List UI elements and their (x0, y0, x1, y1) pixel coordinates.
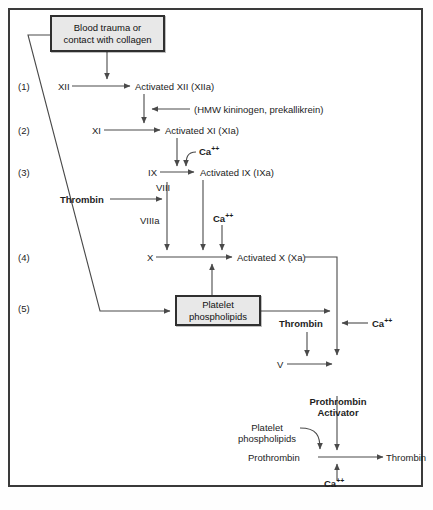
node-viiia: VIIIa (140, 215, 160, 226)
blood-trauma-box: Blood trauma or contact with collagen (50, 15, 165, 52)
node-hmw-kininogen-prekallikrein: (HMW kininogen, prekallikrein) (194, 104, 323, 115)
node-prothrombin: Prothrombin (248, 452, 300, 463)
node-thrombin-2: Thrombin (279, 318, 323, 329)
step-label-1: (1) (18, 81, 30, 92)
node-prothrombin-activator: Prothrombin Activator (296, 396, 380, 418)
node-calcium-3: Ca++ (372, 318, 392, 329)
node-thrombin-1: Thrombin (60, 194, 104, 205)
node-platelet-phospholipids-text: Platelet phospholipids (232, 422, 302, 444)
step-label-4: (4) (18, 252, 30, 263)
node-activated-x: Activated X (Xa) (237, 252, 306, 263)
prothrombin-activator-line1: Prothrombin (310, 396, 367, 407)
figure-canvas: Blood trauma or contact with collagen Pl… (0, 0, 433, 510)
node-activated-xii: Activated XII (XIIa) (135, 81, 214, 92)
platelet-phospholipids-box: Platelet phospholipids (175, 295, 261, 326)
node-calcium-4: Ca++ (324, 478, 344, 489)
node-thrombin-3: Thrombin (386, 452, 426, 463)
platelet-box-line2: phospholipids (189, 311, 247, 322)
node-xii: XII (58, 81, 70, 92)
prothrombin-activator-line2: Activator (317, 407, 358, 418)
node-viii: VIII (156, 182, 170, 193)
node-x: X (147, 252, 153, 263)
blood-trauma-line1: Blood trauma or (74, 22, 142, 33)
node-v: V (277, 359, 283, 370)
node-ix: IX (148, 167, 157, 178)
node-calcium-1: Ca++ (199, 146, 219, 157)
step-label-5: (5) (18, 303, 30, 314)
node-activated-ix: Activated IX (IXa) (200, 167, 274, 178)
node-activated-xi: Activated XI (XIa) (165, 125, 239, 136)
platelet-box-line1: Platelet (202, 299, 234, 310)
blood-trauma-line2: contact with collagen (63, 34, 151, 45)
platelet-text-line1: Platelet (251, 422, 283, 433)
step-label-3: (3) (18, 167, 30, 178)
node-xi: XI (92, 125, 101, 136)
node-calcium-2: Ca++ (213, 213, 233, 224)
step-label-2: (2) (18, 125, 30, 136)
platelet-text-line2: phospholipids (238, 433, 296, 444)
